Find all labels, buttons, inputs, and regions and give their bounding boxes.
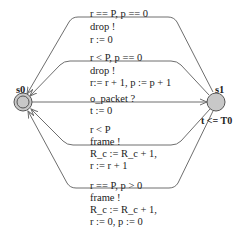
edge-3-update: t := 0 — [90, 105, 112, 118]
state-s0[interactable] — [14, 93, 32, 111]
edge-5-sync: frame ! — [90, 192, 121, 205]
edge-5-update: R_c := R_c + 1, — [90, 204, 157, 217]
state-s1-label: s1 — [215, 84, 224, 95]
edge-3-sync: o_packet ? — [90, 93, 135, 106]
edge-4-update-2: r := r + 1 — [90, 160, 128, 173]
state-s0-label: s0 — [16, 84, 25, 95]
edge-4-guard: r < P — [90, 124, 111, 137]
edge-5-guard: r == P, p > 0 — [90, 180, 142, 193]
state-s1[interactable] — [207, 93, 225, 111]
edge-2-guard: r < P, p == 0 — [90, 52, 142, 65]
edge-1-sync: drop ! — [90, 21, 115, 34]
state-s1-invariant: t <= T0 — [201, 115, 232, 126]
edge-1-guard: r == P, p == 0 — [90, 8, 148, 21]
edge-4-sync: frame ! — [90, 136, 121, 149]
edge-2-sync: drop ! — [90, 65, 115, 78]
edge-4-update: R_c := R_c + 1, — [90, 148, 157, 161]
edge-5-update-2: r := 0, p := 0 — [90, 216, 143, 229]
edge-1-update: r := 0 — [90, 34, 113, 47]
edge-2-update: r:= r + 1, p := p + 1 — [90, 77, 171, 90]
